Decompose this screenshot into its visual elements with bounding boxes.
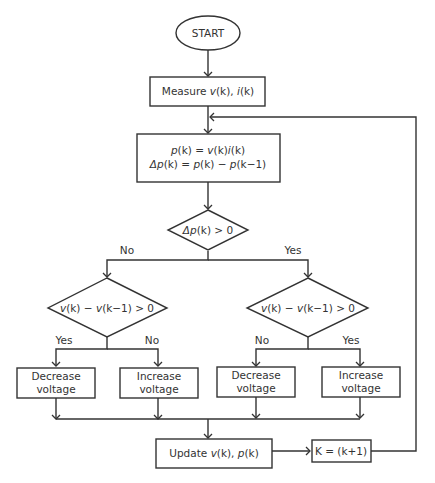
compute-line2: Δp(k) = p(k) − p(k−1) xyxy=(149,158,266,170)
action4-line2: voltage xyxy=(341,382,380,394)
update-label: Update v(k), p(k) xyxy=(169,447,259,459)
flowchart-svg: START Measure v(k), i(k) p(k) = v(k)i(k)… xyxy=(0,0,435,483)
edge-label-right-no: No xyxy=(255,334,269,346)
decision-dv-right-label: v(k) − v(k−1) > 0 xyxy=(261,302,355,314)
flowchart-canvas: START Measure v(k), i(k) p(k) = v(k)i(k)… xyxy=(0,0,435,483)
edge-label-left-no: No xyxy=(145,334,159,346)
start-label: START xyxy=(192,27,225,39)
edge-left-no xyxy=(107,349,158,366)
decision-dp-label: Δp(k) > 0 xyxy=(182,224,233,236)
edge-label-left-yes: Yes xyxy=(55,334,73,346)
increment-label: K = (k+1) xyxy=(315,445,367,457)
action1-line1: Decrease xyxy=(31,370,80,382)
action4-line1: Increase xyxy=(339,369,383,381)
compute-line1: p(k) = v(k)i(k) xyxy=(170,144,245,156)
edge-label-dp-yes: Yes xyxy=(284,244,302,256)
action2-line1: Increase xyxy=(137,370,181,382)
edge-right-yes xyxy=(308,349,360,366)
edge-dp-yes xyxy=(208,260,308,277)
action2-line2: voltage xyxy=(139,383,178,395)
decision-dv-left-label: v(k) − v(k−1) > 0 xyxy=(60,302,154,314)
action3-line2: voltage xyxy=(236,382,275,394)
action3-line1: Decrease xyxy=(231,369,280,381)
edge-label-right-yes: Yes xyxy=(342,334,360,346)
action1-line2: voltage xyxy=(36,383,75,395)
edge-label-dp-no: No xyxy=(120,244,134,256)
measure-label: Measure v(k), i(k) xyxy=(162,85,254,97)
